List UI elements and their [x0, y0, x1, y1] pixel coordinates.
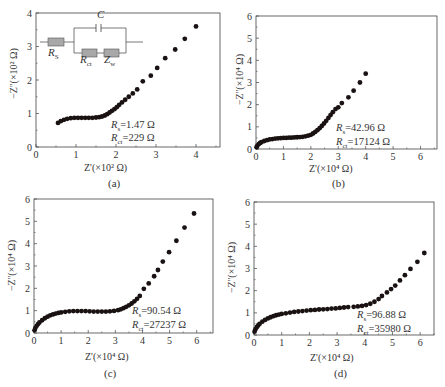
data-point: [385, 290, 390, 295]
rs-annotation-a: Rs=1.47 Ω: [111, 119, 155, 133]
svg-text:5: 5: [247, 33, 252, 44]
svg-text:3: 3: [113, 335, 118, 346]
data-point: [325, 307, 330, 312]
circuit-label-zw: Zw: [104, 53, 115, 68]
x-axis-label-a: Z'(×10² Ω): [84, 162, 127, 173]
data-point: [398, 278, 403, 283]
data-point: [346, 305, 351, 310]
svg-text:0: 0: [252, 337, 257, 348]
caption-d: (d): [334, 367, 347, 379]
data-point: [135, 87, 140, 92]
data-point: [300, 309, 305, 314]
rs-annotation-d: Rs=96.88 Ω: [357, 309, 406, 323]
data-point: [283, 311, 288, 316]
caption-c: (c): [104, 367, 116, 379]
svg-text:0: 0: [27, 142, 32, 153]
data-point: [368, 301, 373, 306]
y-axis-label-a: −Z''(×10² Ω): [8, 39, 19, 109]
svg-text:1: 1: [74, 149, 79, 160]
data-point: [422, 251, 427, 256]
data-point: [130, 91, 135, 96]
y-axis-label-b: −Z''(×10⁴ Ω): [234, 45, 245, 115]
svg-text:4: 4: [363, 151, 368, 162]
svg-text:3: 3: [25, 261, 30, 272]
svg-text:4: 4: [245, 241, 250, 252]
svg-text:0: 0: [254, 151, 259, 162]
svg-text:2: 2: [247, 99, 252, 110]
data-point: [408, 267, 413, 272]
caption-a: (a): [108, 177, 120, 189]
svg-text:6: 6: [418, 337, 423, 348]
data-point: [342, 305, 347, 310]
x-axis-label-c: Z'(×10⁴ Ω): [85, 351, 129, 362]
data-point: [63, 309, 68, 314]
svg-text:1: 1: [279, 337, 284, 348]
data-point: [141, 286, 146, 291]
data-point: [174, 238, 179, 243]
data-point: [146, 281, 151, 286]
x-axis-label-b: Z'(×10⁴ Ω): [309, 163, 353, 174]
circuit-label-c: C: [97, 8, 104, 20]
data-point: [148, 73, 153, 78]
circuit-label-rct: Rct: [80, 53, 92, 68]
svg-text:0: 0: [25, 328, 30, 339]
data-point: [337, 306, 342, 311]
data-point: [351, 304, 356, 309]
data-point: [360, 304, 365, 309]
data-point: [372, 299, 377, 304]
data-point: [346, 95, 351, 100]
data-point: [192, 211, 197, 216]
data-point: [160, 259, 165, 264]
svg-text:0: 0: [34, 149, 39, 160]
svg-text:3: 3: [154, 149, 159, 160]
data-point: [137, 294, 142, 299]
rs-annotation-c: Rs=90.54 Ω: [132, 305, 181, 319]
svg-text:4: 4: [25, 238, 30, 249]
data-point: [313, 308, 318, 313]
data-point: [167, 250, 172, 255]
svg-text:0: 0: [247, 144, 252, 155]
svg-text:2: 2: [307, 337, 312, 348]
svg-text:2: 2: [114, 149, 119, 160]
svg-text:4: 4: [362, 337, 367, 348]
data-point: [108, 309, 113, 314]
y-axis-label-c: −Z''(×10⁴ Ω): [6, 231, 17, 301]
svg-text:6: 6: [25, 194, 30, 205]
svg-text:1: 1: [59, 335, 64, 346]
data-point: [364, 303, 369, 308]
data-point: [403, 273, 408, 278]
data-point: [317, 307, 322, 312]
data-point: [339, 101, 344, 106]
svg-text:2: 2: [245, 285, 250, 296]
data-point: [308, 308, 313, 313]
data-point: [163, 56, 168, 61]
data-point: [389, 287, 394, 292]
svg-text:1: 1: [281, 151, 286, 162]
data-point: [292, 310, 297, 315]
rs-annotation-b: Rs=42.96 Ω: [336, 122, 385, 136]
rct-annotation-c: Rct=27237 Ω: [132, 319, 186, 333]
svg-text:0: 0: [32, 335, 37, 346]
data-point: [152, 274, 157, 279]
svg-text:3: 3: [336, 151, 341, 162]
svg-text:2: 2: [308, 151, 313, 162]
svg-text:1: 1: [247, 121, 252, 132]
svg-text:4: 4: [247, 55, 252, 66]
data-point: [296, 309, 301, 314]
svg-text:5: 5: [167, 335, 172, 346]
svg-text:3: 3: [247, 77, 252, 88]
data-point: [321, 307, 326, 312]
data-point: [380, 294, 385, 299]
svg-text:3: 3: [335, 337, 340, 348]
data-point: [194, 24, 199, 29]
data-point: [182, 36, 187, 41]
data-point: [333, 306, 338, 311]
data-point: [112, 308, 117, 313]
data-point: [288, 310, 293, 315]
data-point: [173, 47, 178, 52]
data-point: [393, 283, 398, 288]
data-point: [140, 79, 145, 84]
data-point: [329, 306, 334, 311]
svg-text:0: 0: [245, 330, 250, 341]
svg-text:6: 6: [194, 335, 199, 346]
